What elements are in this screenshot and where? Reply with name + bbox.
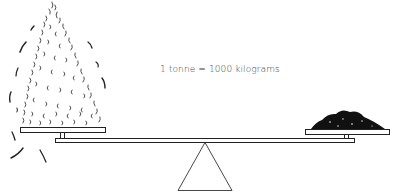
balance-diagram: 1 tonne = 1000 kilograms [0, 0, 397, 194]
right-pan [306, 130, 390, 139]
weight-caption: 1 tonne = 1000 kilograms [150, 64, 290, 74]
coal-heap [311, 110, 385, 129]
fulcrum-triangle [178, 143, 232, 191]
left-pan [21, 128, 106, 139]
